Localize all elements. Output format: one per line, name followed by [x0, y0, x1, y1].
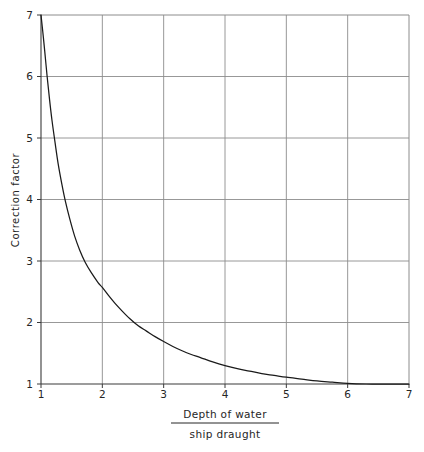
y-tick-label: 5	[26, 132, 33, 144]
chart-figure: 1234567 1234567 Depth of water ship drau…	[0, 0, 424, 452]
x-tick-label: 3	[160, 388, 167, 400]
x-axis-title-denominator: ship draught	[190, 428, 261, 440]
x-tick-label: 1	[38, 388, 45, 400]
x-tick-label: 7	[406, 388, 413, 400]
y-tick-label: 1	[26, 378, 33, 390]
x-axis-title-numerator: Depth of water	[183, 408, 267, 420]
y-tick-label: 4	[26, 193, 33, 205]
y-tick-label: 2	[26, 316, 33, 328]
x-tick-label: 6	[344, 388, 351, 400]
y-tick-label: 6	[26, 70, 33, 82]
x-tick-label: 2	[99, 388, 106, 400]
y-tick-label: 3	[26, 255, 33, 267]
x-tick-label: 5	[283, 388, 290, 400]
y-tick-label: 7	[26, 9, 33, 21]
y-axis-title: Correction factor	[10, 153, 21, 248]
correction-factor-chart: 1234567 1234567 Depth of water ship drau…	[0, 0, 424, 452]
x-tick-label: 4	[222, 388, 229, 400]
